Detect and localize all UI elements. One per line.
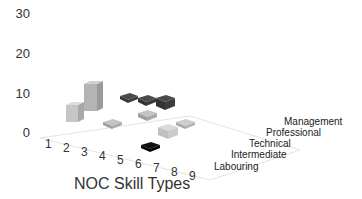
bar-x6-tech [138, 110, 157, 121]
x-tick-5: 5 [117, 153, 124, 167]
x-tick-2: 2 [63, 141, 70, 155]
z-tick-professional: Professional [266, 127, 321, 138]
x-tick-4: 4 [99, 149, 106, 163]
bar-mgmt-5 [120, 93, 138, 103]
z-tick-intermediate: Intermediate [231, 149, 287, 160]
bar-x8-tech [176, 119, 195, 129]
bar-x6-lab [141, 142, 160, 152]
z-tick-labouring: Labouring [214, 161, 258, 172]
y-tick-30: 30 [6, 6, 30, 21]
z-tick-management: Management [284, 116, 342, 127]
z-tick-technical: Technical [249, 138, 291, 149]
y-tick-0: 0 [6, 125, 30, 140]
bar-x4 [103, 119, 122, 129]
bar-mgmt-6 [138, 95, 156, 106]
bar-mgmt-7 [156, 95, 175, 110]
bar-x7-int [158, 124, 178, 139]
bar-x2 [66, 102, 84, 122]
x-tick-1: 1 [45, 137, 52, 151]
x-tick-6: 6 [135, 157, 142, 171]
x-tick-3: 3 [81, 145, 88, 159]
chart-plot-area [0, 0, 362, 199]
x-axis-title: NOC Skill Types [74, 175, 190, 193]
y-tick-20: 20 [6, 46, 30, 61]
y-tick-10: 10 [6, 86, 30, 101]
x-tick-7: 7 [153, 161, 160, 175]
bar-x3 [84, 81, 103, 111]
